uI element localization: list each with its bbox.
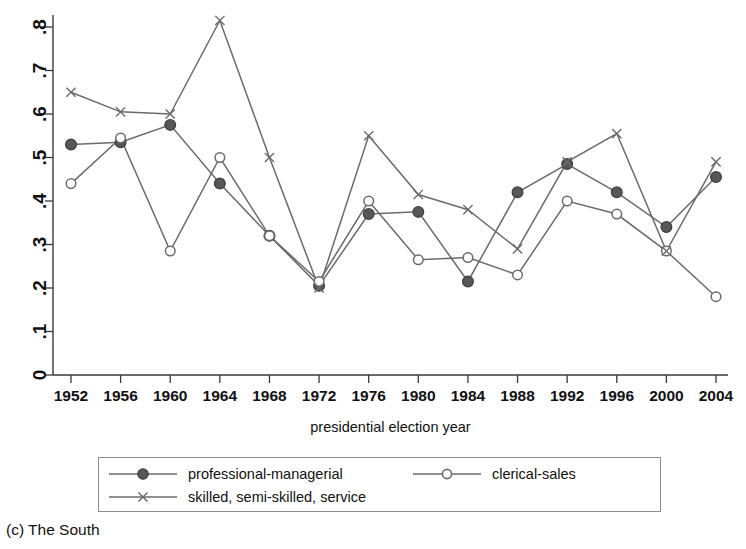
x-tick-label: 1980 [401,387,435,404]
data-point-open-circle [463,253,473,263]
data-point-open-circle [414,255,424,265]
data-point-open-circle [513,270,523,280]
y-tick-label: .4 [29,193,50,209]
data-point-open-circle [711,292,721,302]
legend-swatch-x-icon [107,488,179,506]
figure-caption: (c) The South [6,521,100,539]
data-point-filled-circle [66,139,77,150]
data-point-filled-circle [165,119,176,130]
x-tick-label: 1960 [153,387,187,404]
data-point-open-circle [265,231,275,241]
data-point-open-circle [165,246,175,256]
legend-swatch-open-circle-icon [411,465,483,483]
y-tick-label: .8 [29,19,50,35]
y-tick-label: .7 [29,63,50,79]
x-tick-label: 2004 [699,387,734,404]
y-tick-label: .3 [29,237,50,253]
legend-item-professional-managerial: professional-managerial [107,465,343,483]
x-tick-label: 1952 [54,387,88,404]
x-tick-label: 1956 [103,387,138,404]
data-point-open-circle [364,196,374,206]
data-point-open-circle [612,209,622,219]
x-tick-label: 1964 [203,387,238,404]
data-point-filled-circle [214,178,225,189]
line-chart: 0.1.2.3.4.5.6.7.819521956196019641968197… [0,0,746,440]
data-point-filled-circle [463,276,474,287]
data-point-filled-circle [661,222,672,233]
data-point-filled-circle [711,172,722,183]
data-point-filled-circle [512,187,523,198]
data-point-open-circle [66,179,76,189]
legend-item-skilled-semi-skilled-service: skilled, semi-skilled, service [107,488,366,506]
data-point-filled-circle [611,187,622,198]
x-tick-label: 1992 [550,387,584,404]
x-tick-label: 1972 [302,387,336,404]
y-tick-label: .6 [29,106,50,122]
x-tick-label: 1976 [351,387,386,404]
legend-swatch-filled-circle-icon [107,465,179,483]
x-tick-label: 1988 [500,387,535,404]
series-line-0 [71,125,716,286]
x-tick-label: 2000 [649,387,683,404]
legend-label-skilled-semi-skilled-service: skilled, semi-skilled, service [188,489,366,505]
legend-label-clerical-sales: clerical-sales [492,466,576,482]
y-tick-label: 0 [29,370,50,381]
data-point-open-circle [116,133,126,143]
y-tick-label: .5 [29,149,50,165]
chart-legend: professional-managerial skilled, semi-sk… [98,457,661,512]
data-point-filled-circle [562,159,573,170]
y-tick-label: .1 [29,323,50,339]
x-tick-label: 1968 [252,387,287,404]
data-point-filled-circle [413,206,424,217]
x-tick-label: 1996 [600,387,635,404]
data-point-filled-circle [363,209,374,220]
y-tick-label: .2 [29,280,50,296]
x-axis-title: presidential election year [310,419,471,435]
legend-item-clerical-sales: clerical-sales [411,465,576,483]
figure-panel: 0.1.2.3.4.5.6.7.819521956196019641968197… [0,0,746,549]
x-tick-label: 1984 [451,387,486,404]
data-point-open-circle [215,153,225,163]
data-point-open-circle [562,196,572,206]
legend-label-professional-managerial: professional-managerial [188,466,343,482]
chart-area: 0.1.2.3.4.5.6.7.819521956196019641968197… [0,0,746,440]
